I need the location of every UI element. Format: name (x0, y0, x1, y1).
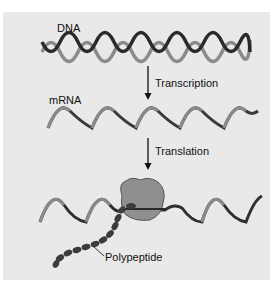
polypeptide-leader-line (93, 246, 104, 256)
diagram-canvas (0, 0, 277, 286)
transcription-arrow (145, 66, 152, 100)
dna-label: DNA (57, 22, 80, 34)
dna-helix (42, 33, 250, 62)
ribosome (121, 178, 165, 220)
translation-arrow (145, 138, 152, 170)
transcription-label: Transcription (155, 77, 218, 89)
translation-label: Translation (155, 145, 209, 157)
mrna-strand (48, 108, 258, 128)
polypeptide-label: Polypeptide (105, 251, 163, 263)
mrna-label: mRNA (49, 94, 81, 106)
